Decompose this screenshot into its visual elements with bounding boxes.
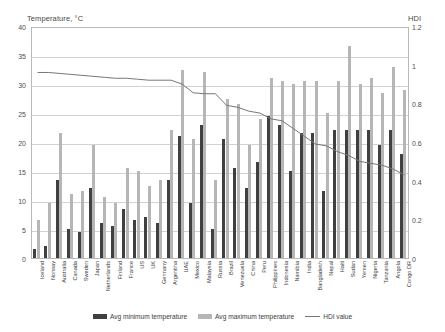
y-tick-label: 25 — [2, 111, 26, 118]
secondary-y-tick-label: 0 — [412, 256, 440, 263]
y-tick-label: 20 — [2, 140, 26, 147]
x-axis-category-label: Haiti — [339, 261, 345, 272]
x-axis-category-label: Brazil — [228, 261, 234, 275]
secondary-y-tick-label: 0.6 — [412, 140, 440, 147]
y-tick-label: 5 — [2, 227, 26, 234]
x-axis-category-label: Sudan — [350, 261, 356, 277]
legend-swatch-light-icon — [198, 314, 212, 319]
x-axis-category-label: Nigeria — [372, 261, 378, 279]
x-axis-category-label: China — [250, 261, 256, 276]
x-axis-category-label: Philippines — [272, 261, 278, 288]
y-tick-label: 15 — [2, 169, 26, 176]
legend-item: HDI value — [305, 313, 352, 320]
x-axis-category-label: Canada — [72, 261, 78, 281]
x-axis-category-label: Indonesia — [283, 261, 289, 285]
x-axis-category-label: US — [139, 261, 145, 269]
x-axis-category-label: Russia — [217, 261, 223, 278]
x-axis-category-label: Congo DR — [406, 261, 412, 287]
x-axis-category-label: India — [306, 261, 312, 273]
x-axis-category-label: Tanzania — [383, 261, 389, 283]
temperature-hdi-chart: Temperature, °C HDI 0510152025303540 00.… — [0, 0, 445, 332]
x-axis-category-label: Nepal — [328, 261, 334, 276]
x-axis-category-label: Bangladesh — [317, 261, 323, 291]
secondary-y-tick-label: 0.2 — [412, 217, 440, 224]
x-axis-category-label: Australia — [61, 261, 67, 283]
y-tick-label: 40 — [2, 24, 26, 31]
legend-item-label: Avg maximum temperature — [215, 313, 294, 320]
legend-item-label: Avg minimum temperature — [110, 313, 187, 320]
legend-line-gray-icon — [305, 316, 320, 317]
x-axis-category-label: UAE — [183, 261, 189, 273]
x-axis-category-label: Germany — [161, 261, 167, 284]
legend-item: Avg maximum temperature — [198, 313, 294, 320]
legend-item: Avg minimum temperature — [93, 313, 187, 320]
legend-item-label: HDI value — [323, 313, 352, 320]
secondary-y-tick-label: 0.8 — [412, 101, 440, 108]
x-axis-category-label: Yemen — [361, 261, 367, 278]
y-tick-label: 10 — [2, 198, 26, 205]
x-axis-category-label: Peru — [261, 261, 267, 273]
plot-area — [31, 27, 409, 259]
secondary-y-tick-label: 1 — [412, 62, 440, 69]
x-axis-category-label: Japan — [94, 261, 100, 276]
x-axis-category-label: Malaysia — [206, 261, 212, 283]
secondary-y-tick-label: 1.2 — [412, 24, 440, 31]
chart-legend: Avg minimum temperatureAvg maximum tempe… — [0, 313, 445, 320]
x-axis-category-label: Argentina — [172, 261, 178, 285]
x-axis-category-label: UK — [150, 261, 156, 269]
x-axis-category-label: Angola — [395, 261, 401, 278]
y-tick-label: 0 — [2, 256, 26, 263]
x-axis-category-label: Namibia — [294, 261, 300, 282]
x-axis-category-label: Norway — [50, 261, 56, 280]
x-axis-category-label: Iceland — [39, 261, 45, 279]
secondary-y-tick-label: 0.4 — [412, 178, 440, 185]
legend-swatch-dark-icon — [93, 314, 107, 319]
x-axis-category-labels: IcelandNorwayAustraliaCanadaSwedenJapanN… — [31, 261, 409, 311]
x-axis-category-label: Netherlands — [105, 261, 111, 291]
x-axis-category-label: Venezuela — [239, 261, 245, 287]
x-axis-category-label: Sweden — [83, 261, 89, 281]
x-axis-category-label: Finland — [117, 261, 123, 279]
y-axis-title: Temperature, °C — [27, 14, 83, 23]
hdi-line-series — [32, 28, 410, 260]
secondary-y-axis-title: HDI — [408, 14, 421, 23]
x-axis-category-label: Mexico — [194, 261, 200, 279]
x-axis-category-label: France — [128, 261, 134, 278]
y-tick-label: 35 — [2, 53, 26, 60]
y-tick-label: 30 — [2, 82, 26, 89]
